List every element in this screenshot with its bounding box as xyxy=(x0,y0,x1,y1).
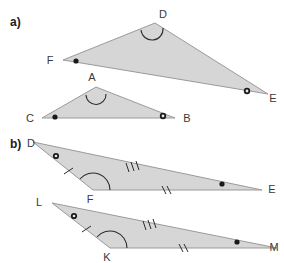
triangle-LKM-shape xyxy=(52,203,277,248)
angle-marker-dot-C xyxy=(52,114,57,119)
part-b-group: b) xyxy=(10,137,279,263)
triangle-LKM: L K M xyxy=(36,196,279,263)
vertex-label-F-b: F xyxy=(87,193,94,205)
angle-marker-ring-E-inner xyxy=(246,90,249,93)
triangle-CAB: C A B xyxy=(26,71,191,124)
triangle-DFE: D F E xyxy=(27,137,276,205)
triangle-FDE-shape xyxy=(63,23,268,94)
angle-marker-dot-F xyxy=(73,58,78,63)
vertex-label-B-a: B xyxy=(183,112,190,124)
vertex-label-D-b: D xyxy=(27,137,35,149)
triangle-CAB-shape xyxy=(42,87,175,118)
part-a-group: a) F D E C A xyxy=(10,8,277,124)
triangle-FDE: F D E xyxy=(47,8,277,104)
triangle-DFE-shape xyxy=(33,142,262,190)
angle-marker-ring-B-inner xyxy=(162,115,165,118)
vertex-label-A-a: A xyxy=(88,71,96,83)
angle-marker-dot-M xyxy=(234,239,239,244)
vertex-label-K-b: K xyxy=(103,251,111,263)
geometry-figure: a) F D E C A xyxy=(0,0,284,263)
angle-marker-ring-L-inner xyxy=(73,215,76,218)
vertex-label-F-a: F xyxy=(47,54,54,66)
angle-marker-ring-D-b-inner xyxy=(55,155,58,158)
vertex-label-L-b: L xyxy=(36,196,42,208)
angle-marker-dot-E-b xyxy=(219,181,224,186)
vertex-label-M-b: M xyxy=(269,241,278,253)
vertex-label-E-b: E xyxy=(268,183,275,195)
vertex-label-E-a: E xyxy=(269,92,276,104)
vertex-label-C-a: C xyxy=(26,112,34,124)
vertex-label-D-a: D xyxy=(159,8,167,20)
part-a-label: a) xyxy=(10,15,21,29)
part-b-label: b) xyxy=(10,137,21,151)
